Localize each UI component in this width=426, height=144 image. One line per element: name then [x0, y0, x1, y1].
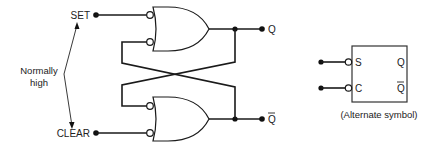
clear-label: CLEAR [57, 128, 90, 139]
normally-high-label-line2: high [30, 77, 48, 88]
c-input-label: C [355, 83, 362, 94]
q-output-label: Q [268, 24, 276, 35]
alt-q-bar-label: Q [397, 83, 405, 94]
alt-q-label: Q [397, 57, 405, 68]
q-bar-terminal [259, 116, 265, 122]
input-bubble-icon [147, 130, 154, 137]
set-label: SET [71, 10, 90, 21]
flip-flop-diagram: SET CLEAR Normally high Q Q [0, 0, 426, 144]
input-bubble-icon [147, 103, 154, 110]
input-bubble-icon [147, 39, 154, 46]
normally-high-label-line1: Normally [20, 65, 58, 76]
alternate-symbol-caption: (Alternate symbol) [340, 109, 417, 120]
top-gate [147, 7, 209, 51]
q-bar-output-label: Q [268, 114, 276, 125]
input-bubble-icon [147, 12, 154, 19]
q-terminal [259, 26, 265, 32]
c-bubble-icon [345, 85, 351, 91]
bottom-gate [147, 97, 209, 141]
annotation-arrows [64, 22, 80, 129]
s-bubble-icon [345, 59, 351, 65]
arrow-up-icon [75, 22, 80, 29]
s-input-label: S [355, 57, 362, 68]
alternate-symbol: S C Q Q (Alternate symbol) [318, 46, 417, 120]
